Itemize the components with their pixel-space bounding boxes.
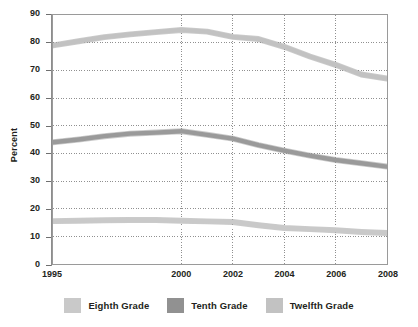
y-axis-tick-label: 20 — [10, 204, 40, 213]
legend-swatch — [64, 298, 81, 313]
plot-area — [52, 14, 388, 265]
y-axis-tick-label: 80 — [10, 37, 40, 46]
x-axis-tick-label: 2002 — [210, 270, 256, 279]
legend-item[interactable]: Eighth Grade — [64, 298, 149, 313]
y-axis-tick-label: 0 — [10, 260, 40, 269]
y-axis-tick-label: 30 — [10, 176, 40, 185]
y-axis-tick-label: 40 — [10, 148, 40, 157]
y-axis-tick-label: 70 — [10, 65, 40, 74]
y-axis-tick-label: 50 — [10, 121, 40, 130]
series-line — [53, 220, 387, 233]
x-axis-tick-label: 2008 — [365, 270, 411, 279]
x-axis-tick-label: 1995 — [29, 270, 75, 279]
y-axis-tick-label: 10 — [10, 232, 40, 241]
x-axis-tick-label: 2006 — [313, 270, 359, 279]
series-canvas — [53, 15, 387, 264]
x-axis-tick-label: 2004 — [262, 270, 308, 279]
legend-swatch — [266, 298, 283, 313]
legend-item[interactable]: Twelfth Grade — [266, 298, 354, 313]
y-axis-tick-label: 60 — [10, 93, 40, 102]
y-axis-spine — [51, 14, 52, 266]
y-axis-tick-label: 90 — [10, 9, 40, 18]
legend-item[interactable]: Tenth Grade — [167, 298, 247, 313]
legend-label: Twelfth Grade — [290, 300, 354, 311]
legend-label: Eighth Grade — [88, 300, 149, 311]
x-axis-tick-label: 2000 — [158, 270, 204, 279]
chart-legend: Eighth GradeTenth GradeTwelfth Grade — [0, 298, 418, 313]
series-line — [53, 131, 387, 166]
chart-container: Percent 0102030405060708090 199520002002… — [0, 0, 418, 327]
legend-swatch — [167, 298, 184, 313]
legend-label: Tenth Grade — [191, 300, 247, 311]
